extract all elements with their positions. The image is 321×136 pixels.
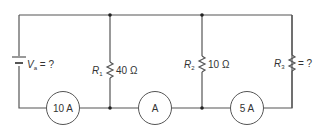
ammeter-total-label: 10 A [53,103,73,114]
r2-value-label: 10 Ω [208,60,229,70]
ammeter-r3: 5 A [230,91,264,125]
r2-symbol-label: R2 [184,60,195,71]
ammeter-total: 10 A [46,91,80,125]
source-voltage-label: Va = ? [27,60,54,71]
ammeter-middle: A [138,91,172,125]
r3-symbol-label: R3 [274,59,285,70]
r3-value-label: = ? [298,59,312,69]
r1-value-label: 40 Ω [116,66,137,76]
ammeter-middle-label: A [152,103,159,114]
ammeter-r3-label: 5 A [240,103,254,114]
r1-symbol-label: R1 [92,66,103,77]
